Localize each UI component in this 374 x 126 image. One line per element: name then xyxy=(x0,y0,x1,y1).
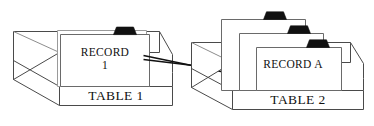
table-1-front-left-slope xyxy=(14,80,60,106)
record-tab-icon xyxy=(307,40,330,48)
table-2-group: RECORD A TABLE 2 xyxy=(192,12,364,110)
record-tab-icon xyxy=(264,12,287,20)
table-1-group: RECORD 1 TABLE 1 xyxy=(14,27,173,106)
record-a-label: RECORD A xyxy=(263,58,323,70)
record-1-label-line-2: 1 xyxy=(102,59,108,71)
diagram-canvas: RECORD 1 TABLE 1 xyxy=(0,0,374,126)
table-1-label: TABLE 1 xyxy=(88,88,143,103)
table-2-right-rim xyxy=(351,43,364,79)
diagram-root: RECORD 1 TABLE 1 xyxy=(0,0,374,126)
record-tab-icon xyxy=(288,26,311,34)
table-2-label: TABLE 2 xyxy=(270,92,325,107)
table-1-right-rim xyxy=(160,32,173,73)
table-1-left-wall xyxy=(14,32,60,80)
record-tab-icon xyxy=(114,27,137,35)
record-1-label-line-1: RECORD xyxy=(81,46,129,58)
